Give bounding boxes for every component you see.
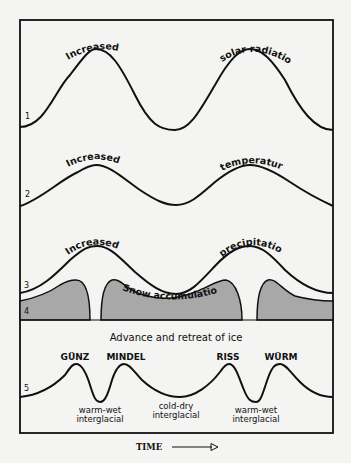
curve-3-precipitation: 3 Increased precipitation	[0, 0, 333, 294]
curve-5-title: Advance and retreat of ice	[110, 332, 243, 343]
svg-text:temperature: temperature	[0, 0, 285, 173]
glacial-cycle-diagram: 1 Increased solar radiation 2 Increased …	[0, 0, 351, 463]
curve-4-snow-accumulation: 4 Snow accumulation	[0, 0, 333, 320]
interglacial-3-line2: interglacial	[232, 414, 279, 424]
svg-text:precipitation: precipitation	[0, 0, 284, 259]
curve-2-number: 2	[25, 190, 30, 199]
label-wurm: WÜRM	[264, 352, 297, 362]
curve-5-ice-advance: Advance and retreat of ice GÜNZ MINDEL R…	[20, 332, 333, 424]
curve-3-label-right: precipitation	[0, 0, 284, 259]
label-gunz: GÜNZ	[61, 352, 90, 362]
interglacial-2-line2: interglacial	[152, 410, 199, 420]
label-mindel: MINDEL	[106, 352, 145, 362]
curve-1-label-left: Increased	[64, 40, 120, 61]
label-riss: RISS	[217, 352, 240, 362]
curve-5-number: 5	[24, 384, 29, 393]
curve-4-number: 4	[24, 307, 29, 316]
curve-2-label-right: temperature	[0, 0, 285, 173]
curve-3-number: 3	[24, 281, 29, 290]
svg-text:Increased: Increased	[63, 236, 121, 257]
time-label: TIME	[136, 442, 163, 452]
svg-text:solar radiation: solar radiation	[0, 0, 294, 66]
curve-1-number: 1	[25, 112, 30, 121]
time-arrow-icon	[211, 444, 218, 451]
svg-text:Increased: Increased	[64, 40, 120, 61]
time-axis: TIME	[136, 442, 218, 452]
curve-1-label-right: solar radiation	[0, 0, 294, 66]
curve-3-label-left: Increased	[63, 236, 121, 257]
interglacial-1-line2: interglacial	[76, 414, 123, 424]
